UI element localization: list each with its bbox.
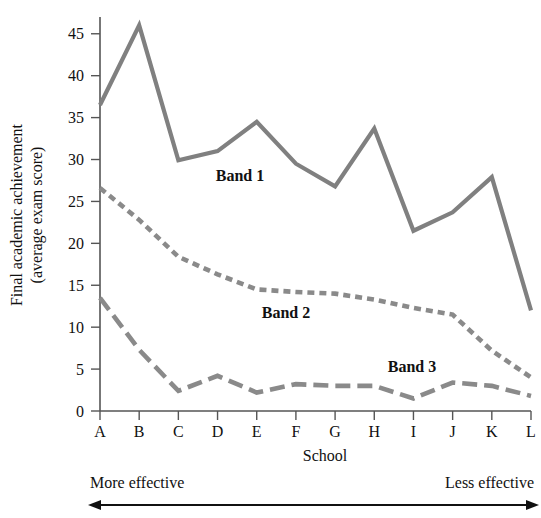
x-tick-label: C	[173, 423, 184, 440]
x-axis-ticks	[100, 411, 531, 420]
series-path-band-2	[100, 188, 531, 377]
y-axis-title-line2: (average exam score)	[28, 147, 46, 284]
x-tick-label: A	[94, 423, 106, 440]
x-tick-label: G	[329, 423, 341, 440]
y-tick-label: 25	[68, 193, 84, 210]
y-axis-title-line1: Final academic achievement	[8, 123, 25, 306]
x-tick-label: L	[526, 423, 536, 440]
y-tick-label: 40	[68, 67, 84, 84]
x-tick-label: K	[486, 423, 498, 440]
series-path-band-3	[100, 298, 531, 399]
chart-figure: Final academic achievement (average exam…	[0, 0, 541, 518]
more-effective-label: More effective	[90, 474, 184, 491]
y-tick-label: 20	[68, 235, 84, 252]
x-tick-label: H	[368, 423, 380, 440]
x-axis-title: School	[303, 447, 348, 464]
series-path-band-1	[100, 25, 531, 310]
y-tick-label: 0	[76, 403, 84, 420]
y-tick-label: 35	[68, 109, 84, 126]
x-axis-tick-labels: ABCDEFGHIJKL	[94, 423, 536, 440]
x-tick-label: D	[212, 423, 224, 440]
y-tick-label: 5	[76, 361, 84, 378]
y-axis-ticks	[91, 34, 100, 411]
x-tick-label: J	[450, 423, 456, 440]
direction-arrow-icon	[88, 500, 539, 510]
x-tick-label: I	[411, 423, 416, 440]
less-effective-label: Less effective	[445, 474, 534, 491]
x-tick-label: B	[134, 423, 145, 440]
y-tick-label: 45	[68, 25, 84, 42]
y-tick-label: 30	[68, 151, 84, 168]
series-paths	[100, 25, 531, 398]
line-chart-canvas: Final academic achievement (average exam…	[0, 0, 541, 518]
y-tick-label: 10	[68, 319, 84, 336]
x-tick-label: E	[252, 423, 262, 440]
x-tick-label: F	[291, 423, 300, 440]
series-label-band-1: Band 1	[216, 167, 264, 184]
series-label-band-2: Band 2	[262, 304, 310, 321]
y-tick-label: 15	[68, 277, 84, 294]
series-label-band-3: Band 3	[388, 358, 436, 375]
y-axis-tick-labels: 051015202530354045	[68, 25, 84, 419]
